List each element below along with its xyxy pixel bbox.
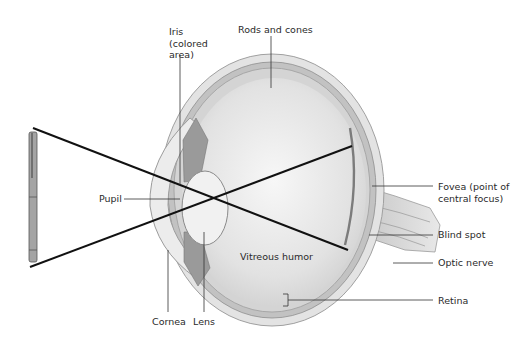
label-vitreous-humor: Vitreous humor bbox=[240, 251, 313, 263]
label-fovea: Fovea (point of central focus) bbox=[438, 181, 509, 204]
pen-object bbox=[29, 132, 37, 262]
label-optic-nerve: Optic nerve bbox=[438, 257, 493, 269]
label-lens: Lens bbox=[193, 316, 215, 328]
label-blind-spot: Blind spot bbox=[438, 229, 485, 241]
label-pupil: Pupil bbox=[99, 193, 122, 205]
label-retina: Retina bbox=[438, 295, 468, 307]
label-iris: Iris (colored area) bbox=[169, 26, 208, 61]
label-cornea: Cornea bbox=[152, 316, 186, 328]
label-rods-and-cones: Rods and cones bbox=[238, 24, 313, 36]
